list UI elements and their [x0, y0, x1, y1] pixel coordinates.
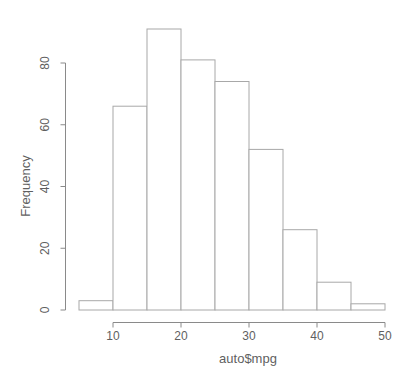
y-tick-label: 20: [38, 241, 52, 255]
histogram-bar: [79, 301, 113, 310]
x-tick-label: 50: [378, 329, 392, 343]
histogram-bar: [317, 282, 351, 310]
x-tick-label: 20: [174, 329, 188, 343]
histogram-bar: [147, 29, 181, 310]
histogram-chart: 0204060801020304050 Frequency auto$mpg: [0, 0, 412, 386]
x-tick-label: 30: [242, 329, 256, 343]
y-tick-label: 40: [38, 180, 52, 194]
histogram-bar: [351, 304, 385, 310]
y-tick-label: 80: [38, 56, 52, 70]
y-tick-label: 60: [38, 118, 52, 132]
y-axis-title: Frequency: [18, 155, 33, 217]
histogram-bar: [181, 60, 215, 310]
histogram-bar: [283, 230, 317, 310]
x-axis-title: auto$mpg: [219, 351, 277, 366]
x-tick-label: 10: [106, 329, 120, 343]
y-tick-label: 0: [38, 306, 52, 313]
histogram-bar: [249, 149, 283, 310]
histogram-figure: 0204060801020304050 Frequency auto$mpg: [0, 0, 412, 386]
histogram-bar: [113, 106, 147, 310]
x-tick-label: 40: [310, 329, 324, 343]
histogram-bar: [215, 82, 249, 311]
